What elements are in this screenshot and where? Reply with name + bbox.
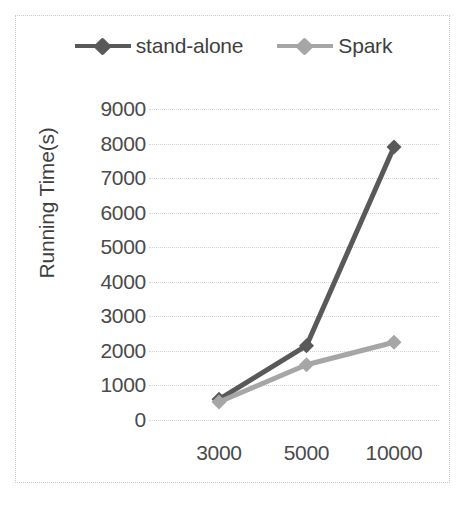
series-plot [149,109,439,420]
data-point-marker [387,140,402,155]
y-axis-tick-label: 5000 [74,235,146,259]
data-point-marker [387,335,402,350]
legend-entry-stand-alone[interactable]: stand-alone [75,34,244,58]
diamond-marker-icon [93,37,111,55]
y-axis-tick-label: 4000 [74,270,146,294]
x-axis-tick-label: 5000 [284,441,330,465]
y-axis-tick-label: 3000 [74,304,146,328]
x-axis-tick-label: 10000 [366,441,423,465]
y-axis-title: Running Time(s) [35,108,59,298]
diamond-marker-icon [296,37,314,55]
gridline [149,420,439,421]
y-axis-tick-label: 1000 [74,373,146,397]
y-axis-tick-label: 6000 [74,201,146,225]
y-axis-tick-label: 2000 [74,339,146,363]
legend-symbol-spark [277,37,333,55]
y-axis-tick-label: 8000 [74,132,146,156]
legend-entry-spark[interactable]: Spark [277,34,392,58]
plot-area [149,109,439,420]
chart-legend: stand-alone Spark [16,34,451,58]
y-axis-tick-label: 7000 [74,166,146,190]
y-axis-tick-labels: 0100020003000400050006000700080009000 [74,98,146,431]
y-axis-tick-label: 0 [74,408,146,432]
chart-frame: stand-alone Spark Running Time(s) 010002… [15,15,450,483]
x-axis-tick-label: 3000 [196,441,242,465]
data-point-marker [299,357,314,372]
legend-label-stand-alone: stand-alone [136,34,244,58]
x-axis-tick-labels: 3000500010000 [149,441,439,473]
legend-label-spark: Spark [338,34,392,58]
legend-symbol-stand-alone [75,37,131,55]
y-axis-tick-label: 9000 [74,97,146,121]
